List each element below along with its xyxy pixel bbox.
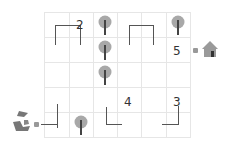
grid-line <box>44 112 191 113</box>
grid-line <box>69 12 70 137</box>
tree-icon <box>98 65 112 85</box>
grid-line <box>141 12 142 137</box>
grid-line <box>44 87 191 88</box>
wall <box>41 124 57 125</box>
house-icon <box>201 40 219 58</box>
tree-icon <box>171 15 185 35</box>
grid-line <box>44 12 45 137</box>
wall <box>129 25 154 26</box>
wall <box>57 104 58 128</box>
grid-line <box>44 137 191 138</box>
wall <box>55 25 56 45</box>
grid-line <box>44 62 191 63</box>
tree-icon <box>74 115 88 135</box>
start-connector <box>34 122 39 127</box>
cell-number: 2 <box>76 19 84 31</box>
grid-line <box>166 12 167 137</box>
fox-icon <box>11 110 33 132</box>
grid-line <box>44 12 191 13</box>
wall <box>106 107 107 125</box>
tree-icon <box>98 15 112 35</box>
grid-line <box>93 12 94 137</box>
wall <box>106 124 122 125</box>
wall <box>153 25 154 45</box>
goal-connector <box>193 48 198 53</box>
cell-number: 5 <box>173 45 181 57</box>
grid-line <box>190 12 191 137</box>
grid-line <box>117 12 118 137</box>
wall <box>129 25 130 45</box>
grid-line <box>44 37 191 38</box>
cell-number: 4 <box>124 96 132 108</box>
wall <box>162 124 179 125</box>
tree-icon <box>98 40 112 60</box>
cell-number: 3 <box>173 96 181 108</box>
